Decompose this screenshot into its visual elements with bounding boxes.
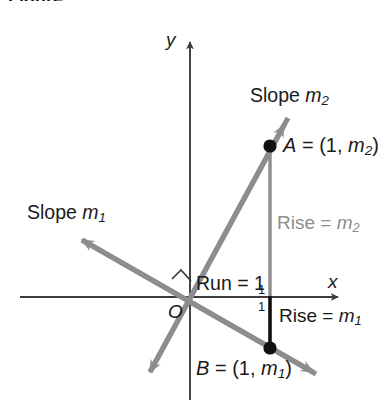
point-b-x: 1	[239, 357, 250, 379]
point-a-close: )	[372, 134, 379, 156]
slope-m1-sub: 1	[99, 210, 106, 225]
point-a-comma: ,	[337, 134, 348, 156]
slope-m2-prefix: Slope	[250, 84, 305, 106]
rise-m2-sub: 2	[353, 220, 360, 235]
point-b-eq: = (	[209, 357, 238, 379]
rise-m1-var: m	[339, 305, 355, 326]
point-a-eq: = (	[296, 134, 325, 156]
tick-label-below: 1	[258, 300, 265, 313]
slope-diagram-figure: Figure y x O	[0, 0, 387, 419]
point-a-x: 1	[326, 134, 337, 156]
right-angle-marker	[172, 270, 191, 281]
rise-m2-label: Rise = m2	[277, 213, 360, 235]
point-a-dot	[263, 139, 276, 152]
point-b-label: B = (1, m1)	[196, 358, 292, 381]
point-b-name: B	[196, 357, 209, 379]
slope-m1-prefix: Slope	[27, 201, 82, 223]
point-a-y-var: m	[348, 134, 365, 156]
rise-m1-prefix: Rise =	[279, 305, 339, 326]
rise-m2-var: m	[337, 212, 353, 233]
slope-m1-var: m	[82, 201, 98, 223]
point-b-comma: ,	[250, 357, 261, 379]
point-b-y-var: m	[261, 357, 278, 379]
rise-m1-sub: 1	[355, 313, 362, 328]
slope-m2-label: Slope m2	[250, 86, 329, 107]
origin-label: O	[168, 302, 183, 321]
point-b-close: )	[285, 357, 292, 379]
slope-m1-label: Slope m1	[27, 203, 106, 224]
rise-m1-label: Rise = m1	[279, 306, 362, 328]
rise-m2-prefix: Rise =	[277, 212, 337, 233]
slope-m2-sub: 2	[322, 93, 329, 108]
x-axis-label: x	[328, 272, 338, 291]
y-axis-label: y	[166, 30, 176, 49]
point-a-label: A = (1, m2)	[283, 135, 379, 158]
point-b-dot	[263, 341, 276, 354]
point-a-name: A	[283, 134, 296, 156]
tick-label-above: 1	[258, 283, 265, 296]
run-label: Run = 1	[196, 274, 265, 294]
slope-m2-var: m	[305, 84, 321, 106]
line-slope-m2-upper-arrow	[150, 125, 284, 372]
